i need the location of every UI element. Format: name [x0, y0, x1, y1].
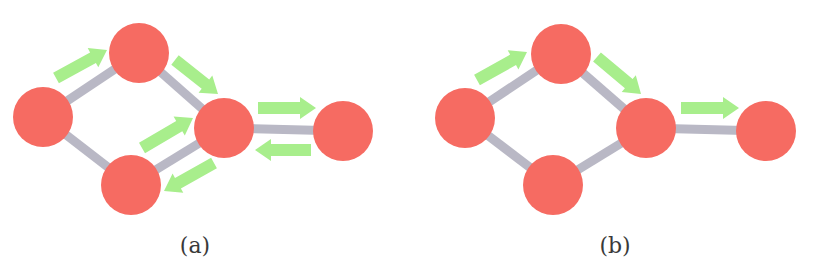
panel-a: (a) [13, 23, 373, 258]
panel-b: (b) [435, 24, 796, 258]
network-flow-figure: (a) (b) [0, 0, 825, 272]
flow-arrow-n5-to-n4 [255, 139, 311, 161]
panel-a-flow-arrows [53, 48, 316, 193]
node-n2 [109, 23, 169, 83]
node-n5 [313, 101, 373, 161]
panel-b-nodes [435, 24, 796, 215]
node-n5 [736, 101, 796, 161]
panel-a-nodes [13, 23, 373, 215]
panel-b-label: (b) [599, 233, 630, 258]
panel-a-label: (a) [180, 233, 210, 258]
flow-arrow-n4-to-n5 [258, 97, 316, 119]
node-n1 [13, 87, 73, 147]
node-n2 [531, 24, 591, 84]
node-n4 [616, 98, 676, 158]
flow-arrow-n4-to-n5 [681, 97, 739, 119]
node-n4 [194, 98, 254, 158]
node-n3 [523, 155, 583, 215]
node-n3 [101, 155, 161, 215]
node-n1 [435, 88, 495, 148]
